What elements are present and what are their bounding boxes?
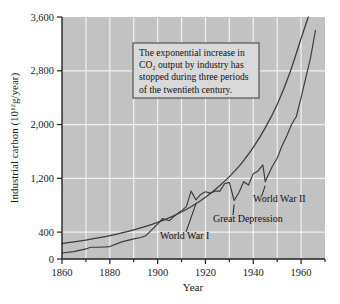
y-tick-label: 3,600 — [30, 12, 54, 23]
x-axis-title: Year — [183, 281, 204, 293]
note-box-line: stopped during three periods — [139, 71, 249, 82]
y-axis-title-main: Industrial carbon (10 — [8, 110, 21, 203]
note-box-line: of the twentieth century. — [139, 84, 232, 95]
annotation-label: World War I — [160, 230, 209, 241]
y-tick-label: 2,000 — [30, 119, 54, 130]
y-axis-title: Industrial carbon (1012g/year) — [8, 72, 21, 203]
x-tick-label: 1900 — [147, 267, 168, 278]
y-axis-title-tail: g/year) — [8, 72, 21, 103]
chart-figure: 186018801900192019401960 04001,2002,0002… — [0, 0, 340, 304]
y-tick-label: 2,800 — [30, 65, 54, 76]
y-tick-label: 400 — [38, 227, 54, 238]
x-tick-label: 1860 — [52, 267, 73, 278]
annotation-label: Great Depression — [213, 213, 283, 224]
x-tick-label: 1940 — [243, 267, 264, 278]
y-tick-label: 0 — [49, 254, 54, 265]
x-tick-label: 1880 — [99, 267, 120, 278]
x-tick-label: 1960 — [291, 267, 312, 278]
y-tick-label: 1,200 — [30, 173, 54, 184]
annotation-label: World War II — [253, 193, 306, 204]
x-tick-label: 1920 — [195, 267, 216, 278]
note-box-line: CO₂ output by industry has — [139, 59, 244, 70]
industrial-carbon-line-chart: 186018801900192019401960 04001,2002,0002… — [0, 0, 340, 304]
note-box-line: The exponential increase in — [139, 47, 245, 58]
